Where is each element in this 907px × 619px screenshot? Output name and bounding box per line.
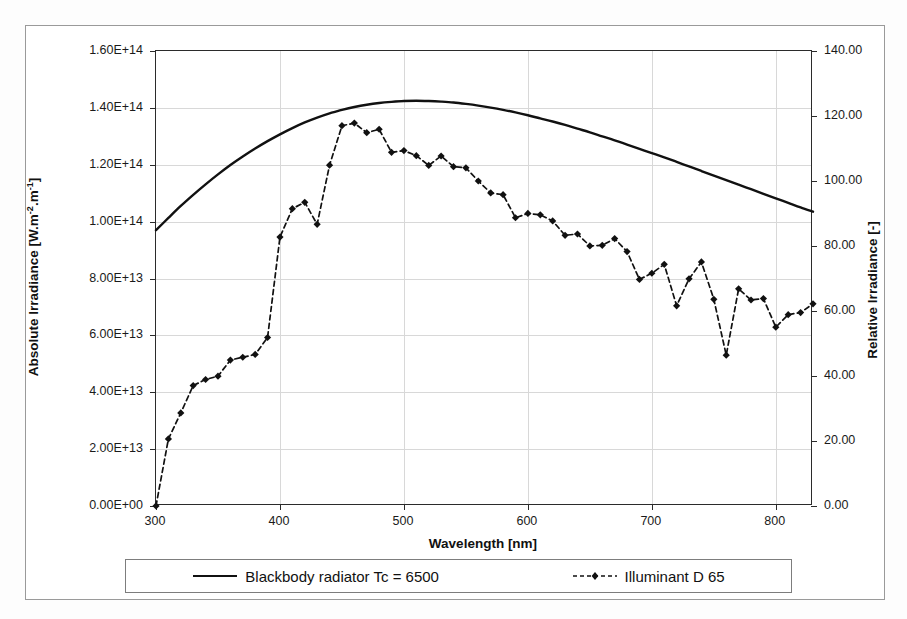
x-axis-tick-label: 400 — [269, 514, 290, 528]
x-axis-tick-label: 700 — [640, 514, 661, 528]
legend-swatch-solid-line — [192, 570, 238, 582]
data-point-marker — [524, 210, 531, 217]
y-axis-right-tick-label: 0.00 — [824, 498, 848, 512]
y-axis-left-tick-label: 1.60E+14 — [0, 43, 143, 57]
series-line-blackbody — [156, 101, 813, 230]
data-point-marker — [177, 409, 184, 416]
data-point-marker — [252, 351, 259, 358]
legend-item-blackbody[interactable]: Blackbody radiator Tc = 6500 — [192, 568, 439, 585]
data-point-marker — [487, 189, 494, 196]
data-point-marker — [723, 352, 730, 359]
data-point-marker — [239, 354, 246, 361]
data-point-marker — [599, 242, 606, 249]
data-point-marker — [276, 233, 283, 240]
data-point-marker — [301, 199, 308, 206]
y-axis-left-tick-label: 2.00E+13 — [0, 441, 143, 455]
y-axis-left-tick-label: 1.40E+14 — [0, 100, 143, 114]
y-axis-right-tick-label: 140.00 — [824, 43, 862, 57]
y-axis-right-tick-label: 40.00 — [824, 368, 855, 382]
chart-legend: Blackbody radiator Tc = 6500 Illuminant … — [125, 559, 792, 593]
y-axis-left-tick-label: 4.00E+13 — [0, 384, 143, 398]
data-point-marker — [537, 211, 544, 218]
x-axis-tick-label: 300 — [145, 514, 166, 528]
y-axis-left-tick-label: 6.00E+13 — [0, 327, 143, 341]
plot-area — [155, 50, 812, 505]
legend-item-illuminant[interactable]: Illuminant D 65 — [572, 568, 725, 585]
chart-figure: Absolute Irradiance [W.m-2.m-1] Relative… — [0, 0, 907, 619]
data-point-marker — [586, 242, 593, 249]
y-axis-left-tick-label: 1.00E+14 — [0, 214, 143, 228]
data-point-marker — [326, 162, 333, 169]
data-point-marker — [190, 382, 197, 389]
data-point-marker — [549, 217, 556, 224]
x-axis-title: Wavelength [nm] — [429, 536, 537, 551]
data-point-marker — [400, 147, 407, 154]
data-point-marker — [202, 376, 209, 383]
data-point-marker — [512, 214, 519, 221]
y-axis-right-tick-label: 60.00 — [824, 303, 855, 317]
data-series-layer — [156, 51, 813, 506]
data-point-marker — [797, 309, 804, 316]
y-axis-right-tick-label: 80.00 — [824, 238, 855, 252]
data-point-marker — [165, 435, 172, 442]
y-axis-left-tick-label: 0.00E+00 — [0, 498, 143, 512]
data-point-marker — [710, 296, 717, 303]
x-axis-tick-label: 800 — [764, 514, 785, 528]
data-point-marker — [760, 295, 767, 302]
data-point-marker — [376, 126, 383, 133]
legend-label-illuminant: Illuminant D 65 — [625, 568, 725, 585]
y-axis-right-tick-label: 100.00 — [824, 173, 862, 187]
y-axis-right-title: Relative Irradiance [-] — [865, 221, 880, 358]
data-point-marker — [611, 235, 618, 242]
data-point-marker — [636, 276, 643, 283]
legend-label-blackbody: Blackbody radiator Tc = 6500 — [245, 568, 439, 585]
x-axis-tick-label: 600 — [516, 514, 537, 528]
y-axis-right-tick — [811, 506, 817, 507]
data-point-marker — [289, 205, 296, 212]
data-point-marker — [388, 149, 395, 156]
data-point-marker — [314, 221, 321, 228]
y-axis-left-tick-label: 1.20E+14 — [0, 157, 143, 171]
legend-swatch-dashed-line — [572, 570, 618, 582]
x-axis-tick-label: 500 — [392, 514, 413, 528]
data-point-marker — [338, 122, 345, 129]
data-point-marker — [499, 191, 506, 198]
data-point-marker — [673, 302, 680, 309]
y-axis-right-tick-label: 20.00 — [824, 433, 855, 447]
y-axis-right-tick-label: 120.00 — [824, 108, 862, 122]
series-line-illuminant-d65 — [156, 123, 813, 506]
y-axis-left-tick-label: 8.00E+13 — [0, 271, 143, 285]
